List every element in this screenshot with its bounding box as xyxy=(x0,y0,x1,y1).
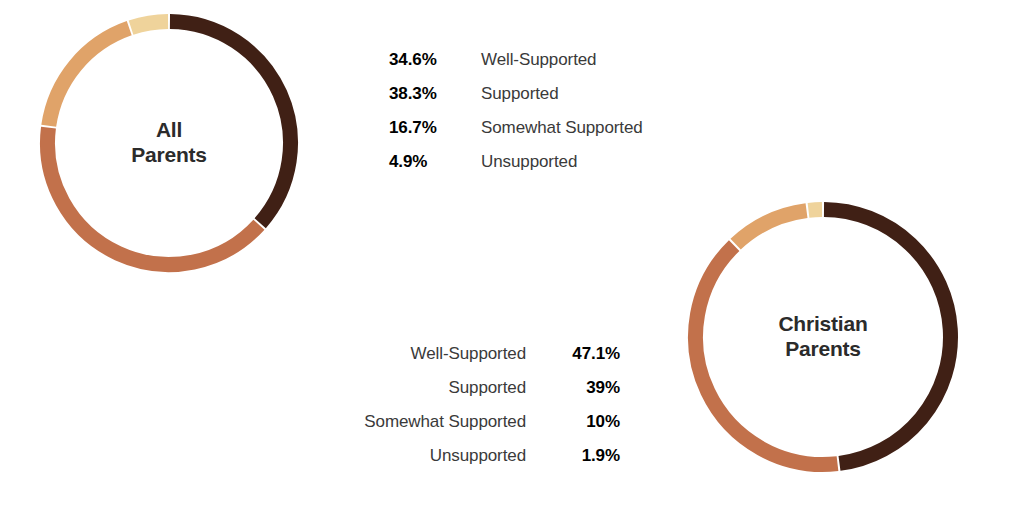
legend-label: Unsupported xyxy=(330,446,526,466)
legend-all-parents: 34.6% Well-Supported 38.3% Supported 16.… xyxy=(389,50,643,186)
donut-all-parents-svg xyxy=(40,14,298,272)
legend-percent: 34.6% xyxy=(389,50,481,70)
legend-item: 38.3% Supported xyxy=(389,84,643,118)
legend-item: Supported 39% xyxy=(330,378,620,412)
donut-christian-parents-segments xyxy=(696,210,951,465)
donut-chart-christian-parents: Christian Parents xyxy=(688,202,958,472)
donut-segment xyxy=(48,128,259,265)
legend-label: Unsupported xyxy=(481,152,577,172)
legend-percent: 39% xyxy=(526,378,620,398)
legend-percent: 16.7% xyxy=(389,118,481,138)
legend-item: Well-Supported 47.1% xyxy=(330,344,620,378)
legend-percent: 4.9% xyxy=(389,152,481,172)
legend-label: Well-Supported xyxy=(330,344,526,364)
donut-segment xyxy=(49,28,129,126)
legend-percent: 10% xyxy=(526,412,620,432)
legend-percent: 38.3% xyxy=(389,84,481,104)
donut-segment xyxy=(696,246,838,465)
legend-christian-parents: Well-Supported 47.1% Supported 39% Somew… xyxy=(330,344,620,480)
donut-all-parents-segments xyxy=(48,22,291,265)
donut-segment xyxy=(170,22,291,224)
legend-item: Unsupported 1.9% xyxy=(330,446,620,480)
legend-label: Supported xyxy=(330,378,526,398)
donut-christian-parents-svg xyxy=(688,202,958,472)
donut-segment xyxy=(736,211,807,245)
legend-label: Somewhat Supported xyxy=(330,412,526,432)
legend-label: Well-Supported xyxy=(481,50,596,70)
donut-chart-figure: All Parents 34.6% Well-Supported 38.3% S… xyxy=(0,0,1018,522)
donut-segment xyxy=(824,210,950,464)
legend-percent: 47.1% xyxy=(526,344,620,364)
legend-label: Somewhat Supported xyxy=(481,118,643,138)
donut-chart-all-parents: All Parents xyxy=(40,14,298,272)
donut-segment xyxy=(809,210,822,211)
legend-item: 4.9% Unsupported xyxy=(389,152,643,186)
donut-segment xyxy=(131,22,168,28)
legend-percent: 1.9% xyxy=(526,446,620,466)
legend-item: Somewhat Supported 10% xyxy=(330,412,620,446)
legend-item: 34.6% Well-Supported xyxy=(389,50,643,84)
legend-label: Supported xyxy=(481,84,559,104)
legend-item: 16.7% Somewhat Supported xyxy=(389,118,643,152)
